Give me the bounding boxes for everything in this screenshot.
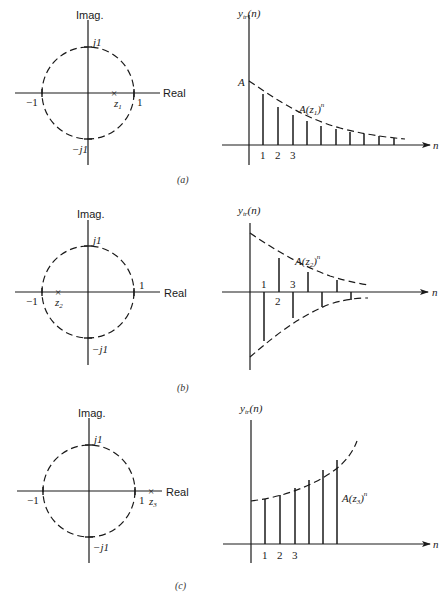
y-axis-label: ytr(n): [237, 7, 261, 21]
tick-label-1: 1: [262, 549, 268, 561]
tick-label-2: 2: [275, 149, 281, 161]
z-plane-a: Imag. Real j1 −j1 1 −1 × z1: [15, 9, 186, 165]
tick-label-1: 1: [261, 278, 267, 290]
tick-label-1: 1: [260, 149, 266, 161]
j1-label: j1: [91, 36, 102, 48]
real-label: Real: [166, 486, 189, 498]
neg-one-label: −1: [27, 494, 39, 506]
tick-label-3: 3: [290, 149, 296, 161]
decay-envelope: [249, 81, 405, 139]
envelope-label: A(z1)n: [298, 101, 325, 117]
one-label: 1: [139, 494, 145, 506]
one-label: 1: [137, 96, 143, 108]
neg-one-label: −1: [26, 96, 38, 108]
pole-label: z3: [148, 495, 157, 509]
real-label: Real: [163, 87, 186, 99]
panel-c: Imag. Real j1 −j1 1 −1 × z3 ytr(n) n 1: [17, 402, 439, 592]
n-axis-label: n: [432, 286, 438, 298]
n-axis-label: n: [433, 139, 439, 151]
pole-label: z2: [54, 296, 63, 310]
neg-j1-label: −j1: [72, 143, 88, 155]
lower-envelope: [250, 298, 368, 357]
tick-label-3: 3: [290, 278, 296, 290]
tick-label-2: 2: [277, 549, 283, 561]
envelope-label: A(z2)n: [294, 253, 321, 269]
imag-label: Imag.: [78, 407, 106, 419]
pole-label: z1: [113, 97, 122, 111]
response-plot-a: ytr(n) n A 1 2 3 A(z1)n: [222, 7, 439, 165]
y-axis-label: ytr(n): [237, 204, 261, 218]
neg-j1-label: −j1: [92, 343, 108, 355]
stems: [263, 94, 394, 145]
panel-b: Imag. Real j1 −j1 1 −1 × z2 ytr(n) n: [15, 204, 438, 394]
neg-one-label: −1: [26, 295, 38, 307]
response-plot-c: ytr(n) n 1 2 3 A(z3)n: [223, 402, 439, 563]
z-plane-b: Imag. Real j1 −j1 1 −1 × z2: [15, 208, 187, 365]
caption-b: (b): [177, 382, 189, 394]
envelope-label: A(z3)n: [341, 490, 368, 506]
stems: [265, 460, 337, 544]
imag-label: Imag.: [76, 9, 104, 21]
tick-label-3: 3: [292, 549, 298, 561]
figure-canvas: Imag. Real j1 −j1 1 −1 × z1 ytr(n) n A: [0, 0, 444, 599]
caption-a: (a): [177, 174, 189, 186]
imag-label: Imag.: [77, 208, 105, 220]
j1-label: j1: [91, 234, 102, 246]
n-axis-label: n: [433, 538, 439, 550]
caption-c: (c): [175, 580, 187, 592]
z-plane-c: Imag. Real j1 −j1 1 −1 × z3: [17, 407, 189, 563]
y-axis-label: ytr(n): [239, 402, 263, 416]
tick-label-2: 2: [275, 295, 281, 307]
neg-j1-label: −j1: [93, 541, 109, 553]
j1-label: j1: [92, 433, 103, 445]
panel-a: Imag. Real j1 −j1 1 −1 × z1 ytr(n) n A: [15, 7, 439, 186]
one-label: 1: [139, 279, 145, 291]
response-plot-b: ytr(n) n 1 2 3 A(z2)n: [222, 204, 438, 370]
start-value-label: A: [237, 76, 245, 88]
real-label: Real: [164, 287, 187, 299]
